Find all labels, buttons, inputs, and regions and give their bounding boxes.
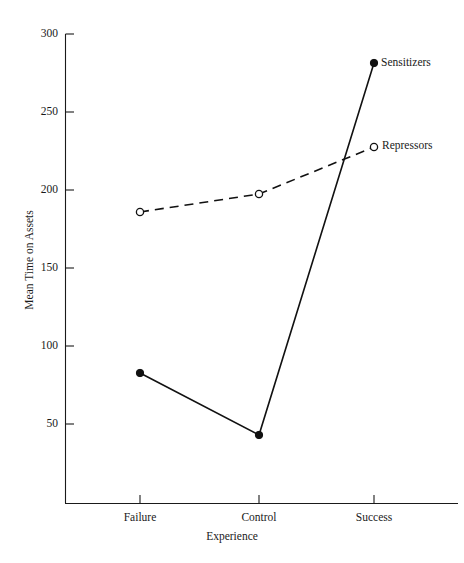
- x-tick-label-control: Control: [241, 512, 276, 524]
- chart-plot-area: [0, 0, 464, 563]
- y-tick-label-250: 250: [32, 106, 58, 118]
- y-tick-label-200: 200: [32, 184, 58, 196]
- x-tick-label-success: Success: [356, 512, 392, 524]
- series-label-repressors: Repressors: [382, 140, 432, 152]
- data-point-sensitizers-failure: [136, 369, 143, 376]
- y-tick-label-100: 100: [32, 340, 58, 352]
- data-point-repressors-control: [255, 190, 262, 197]
- series-line-sensitizers: [140, 63, 374, 435]
- series-line-repressors: [140, 147, 374, 212]
- data-point-sensitizers-control: [255, 431, 262, 438]
- data-point-sensitizers-success: [370, 59, 377, 66]
- chart-figure: 300 250 200 150 100 50 Failure Control S…: [0, 0, 464, 563]
- data-point-repressors-failure: [136, 208, 143, 215]
- y-tick-label-50: 50: [32, 418, 58, 430]
- series-label-sensitizers: Sensitizers: [381, 57, 431, 69]
- data-point-repressors-success: [370, 143, 377, 150]
- x-tick-label-failure: Failure: [124, 512, 157, 524]
- y-axis-title: Mean Time on Assets: [24, 210, 36, 309]
- y-tick-label-150: 150: [32, 262, 58, 274]
- x-axis-title: Experience: [206, 531, 258, 543]
- y-tick-label-300: 300: [32, 28, 58, 40]
